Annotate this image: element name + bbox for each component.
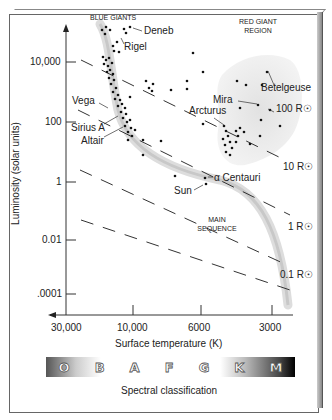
x-tick-30000: 30,000: [51, 323, 82, 333]
star-label-alpha-centauri: α Centauri: [214, 173, 260, 183]
radius-label-1: 1 R☉: [288, 222, 313, 232]
star-label-deneb: Deneb: [144, 26, 173, 36]
spectral-class-g: G: [199, 360, 210, 375]
star-label-altair: Altair: [81, 136, 104, 146]
star-label-sun: Sun: [174, 186, 192, 196]
spectral-class-m: M: [269, 360, 282, 375]
spectral-class-bar: O B A F G K M: [46, 357, 295, 377]
spectral-class-f: F: [165, 360, 174, 375]
red-giant-label: RED GIANT REGION: [236, 17, 280, 35]
radius-line-01: [81, 220, 290, 290]
x-tick-10000: 10,000: [117, 323, 148, 333]
star-label-betelgeuse: Betelgeuse: [261, 83, 311, 93]
spectral-class-o: O: [59, 360, 70, 375]
blue-giants-label: BLUE GIANTS: [90, 13, 136, 22]
main-sequence-label: MAIN SEQUENCE: [192, 215, 242, 233]
x-tick-6000: 6000: [188, 323, 210, 333]
y-tick-100: 100: [45, 117, 62, 127]
radius-label-01: 0.1 R☉: [280, 270, 313, 280]
spectral-class-a: A: [130, 360, 140, 375]
star-label-rigel: Rigel: [124, 42, 147, 52]
x-tick-3000: 3000: [259, 323, 281, 333]
radius-label-10: 10 R☉: [283, 162, 313, 172]
star-label-arcturus: Arcturus: [189, 106, 226, 116]
star-label-sirius-a: Sirius A: [71, 123, 105, 133]
star-label-vega: Vega: [72, 96, 95, 106]
spectral-class-k: K: [234, 360, 244, 375]
star-label-mira: Mira: [213, 95, 232, 105]
spectral-class-b: B: [95, 360, 105, 375]
x-axis-title: Surface temperature (K): [115, 339, 222, 349]
radius-label-100: 100 R☉: [276, 104, 312, 114]
y-axis-title: Luminosity (solar units): [10, 122, 21, 225]
y-tick-10000: 10,000: [30, 57, 61, 67]
y-tick-1: 1: [56, 177, 62, 187]
y-tick-001: 0.01: [42, 235, 61, 245]
spectral-title: Spectral classification: [121, 386, 217, 396]
y-tick-00001: .0001: [37, 289, 62, 299]
